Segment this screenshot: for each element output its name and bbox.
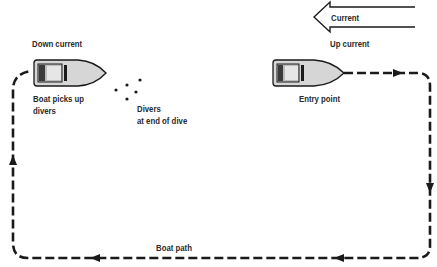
boat-picks-up-label-line2: divers	[33, 105, 56, 116]
entry-boat-icon	[273, 60, 344, 86]
current-arrow-icon	[314, 2, 415, 32]
boat-picks-up-label-line1: Boat picks up	[33, 93, 84, 104]
pickup-boat-icon	[34, 60, 106, 86]
boat-path-label: Boat path	[156, 242, 192, 253]
current-label: Current	[331, 12, 359, 23]
divers-dots-icon	[114, 78, 141, 100]
up-current-label: Up current	[330, 38, 369, 49]
divers-label-line2: at end of dive	[137, 115, 187, 126]
dive-pattern-diagram: Current Down current Up current Boat pic…	[0, 0, 437, 267]
divers-label-line1: Divers	[137, 103, 161, 114]
entry-point-label: Entry point	[299, 93, 340, 104]
down-current-label: Down current	[32, 38, 82, 49]
